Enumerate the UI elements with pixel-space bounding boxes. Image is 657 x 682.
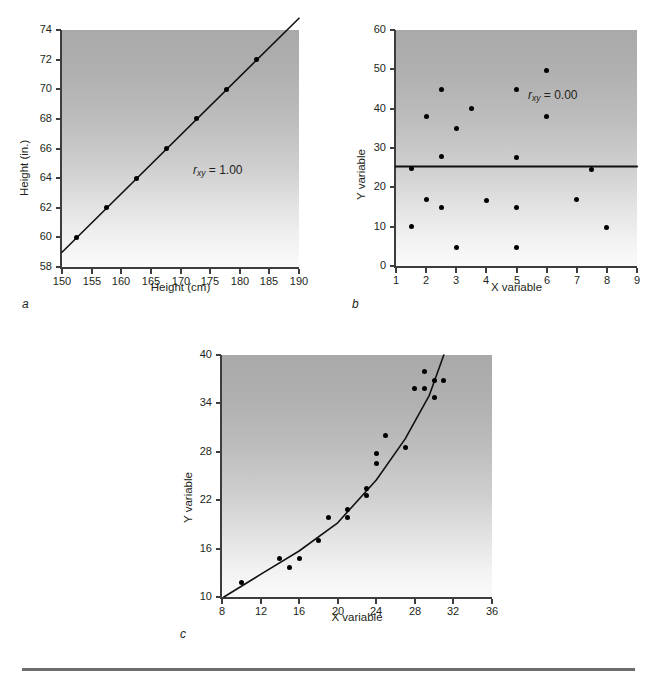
x-tick-c xyxy=(298,599,300,604)
data-point xyxy=(409,166,414,171)
y-axis-title-a: Height (in.) xyxy=(18,140,30,196)
y-tick-label-b: 10 xyxy=(356,221,386,231)
y-tick-label-c: 10 xyxy=(182,591,212,601)
y-tick-a xyxy=(56,148,61,150)
y-tick-label-a: 68 xyxy=(16,113,52,123)
data-point xyxy=(439,87,444,92)
x-tick-a xyxy=(150,269,152,274)
plot-area-a xyxy=(62,30,299,267)
y-tick-label-b: 60 xyxy=(356,24,386,34)
x-tick-a xyxy=(180,269,182,274)
y-tick-label-a: 60 xyxy=(16,231,52,241)
y-tick-c xyxy=(216,548,221,550)
x-tick-a xyxy=(209,269,211,274)
data-point xyxy=(326,515,331,520)
x-tick-c xyxy=(414,599,416,604)
y-tick-label-b: 50 xyxy=(356,63,386,73)
y-tick-b xyxy=(390,108,395,110)
x-tick-c xyxy=(452,599,454,604)
x-tick-c xyxy=(491,599,493,604)
y-tick-a xyxy=(56,29,61,31)
data-point xyxy=(424,197,429,202)
data-point xyxy=(439,154,444,159)
x-tick-c xyxy=(260,599,262,604)
y-tick-a xyxy=(56,236,61,238)
data-point xyxy=(514,155,519,160)
y-tick-b xyxy=(390,186,395,188)
y-tick-label-c: 40 xyxy=(182,349,212,359)
y-tick-a xyxy=(56,207,61,209)
data-point xyxy=(239,580,244,585)
annotation-value-a: = 1.00 xyxy=(209,163,243,177)
x-tick-a xyxy=(61,269,63,274)
y-tick-a xyxy=(56,88,61,90)
y-tick-label-a: 62 xyxy=(16,202,52,212)
data-point xyxy=(439,205,444,210)
data-point xyxy=(544,68,549,73)
x-tick-a xyxy=(91,269,93,274)
y-axis-title-b: Y variable xyxy=(355,149,367,200)
y-tick-c xyxy=(216,596,221,598)
top-partial-text xyxy=(22,0,412,9)
y-tick-a xyxy=(56,177,61,179)
panel-letter-b: b xyxy=(352,297,359,311)
x-tick-c xyxy=(375,599,377,604)
x-tick-c xyxy=(337,599,339,604)
data-point xyxy=(403,445,408,450)
data-point xyxy=(297,556,302,561)
y-tick-label-a: 58 xyxy=(16,261,52,271)
x-tick-a xyxy=(268,269,270,274)
plot-area-c xyxy=(222,355,492,597)
x-tick-b xyxy=(425,268,427,273)
data-point xyxy=(409,224,414,229)
y-tick-b xyxy=(390,226,395,228)
data-point xyxy=(316,538,321,543)
y-tick-a xyxy=(56,266,61,268)
x-tick-a xyxy=(120,269,122,274)
correlation-annotation-a: rxy = 1.00 xyxy=(193,163,243,178)
y-tick-label-a: 74 xyxy=(16,24,52,34)
x-axis-title-b: X variable xyxy=(396,281,637,293)
y-tick-label-c: 34 xyxy=(182,397,212,407)
data-point xyxy=(424,114,429,119)
plot-area-b xyxy=(396,30,637,266)
data-point xyxy=(364,493,369,498)
data-point xyxy=(422,386,427,391)
y-tick-label-a: 72 xyxy=(16,54,52,64)
y-tick-label-b: 40 xyxy=(356,103,386,113)
data-point xyxy=(74,235,79,240)
y-tick-c xyxy=(216,451,221,453)
data-point xyxy=(469,106,474,111)
y-tick-b xyxy=(390,29,395,31)
y-tick-b xyxy=(390,265,395,267)
x-tick-b xyxy=(636,268,638,273)
x-tick-b xyxy=(455,268,457,273)
y-tick-b xyxy=(390,147,395,149)
x-tick-b xyxy=(576,268,578,273)
data-point xyxy=(134,176,139,181)
annotation-subscript-b: xy xyxy=(532,93,541,103)
correlation-annotation-b: rxy = 0.00 xyxy=(528,88,578,103)
bottom-divider-rule xyxy=(22,668,635,671)
data-point xyxy=(364,486,369,491)
y-axis-line-b xyxy=(394,30,396,268)
x-tick-b xyxy=(516,268,518,273)
y-tick-c xyxy=(216,499,221,501)
x-tick-a xyxy=(239,269,241,274)
y-tick-b xyxy=(390,68,395,70)
y-tick-label-c: 28 xyxy=(182,446,212,456)
data-point xyxy=(412,386,417,391)
data-point xyxy=(432,395,437,400)
data-point xyxy=(514,205,519,210)
panel-letter-c: c xyxy=(180,627,186,641)
x-tick-b xyxy=(546,268,548,273)
y-axis-line-c xyxy=(220,355,222,599)
data-point xyxy=(432,378,437,383)
panel-letter-a: a xyxy=(22,297,29,311)
data-point xyxy=(484,198,489,203)
y-tick-c xyxy=(216,402,221,404)
y-tick-label-b: 0 xyxy=(356,260,386,270)
y-tick-label-c: 16 xyxy=(182,543,212,553)
x-axis-title-c: X variable xyxy=(222,611,492,623)
y-tick-c xyxy=(216,354,221,356)
